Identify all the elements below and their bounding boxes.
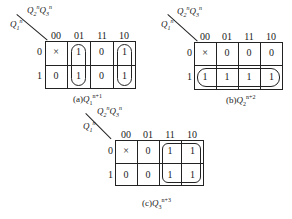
kmap-b: Q2nQ3n Q1n 00 01 11 10 0 1 × 0 0 0 1 1 1… [146, 0, 292, 110]
column-header: 10 [181, 129, 203, 140]
row-header: 1 [34, 70, 42, 81]
cell: 0 [137, 145, 159, 156]
grid-divider [194, 65, 283, 66]
column-header: 00 [45, 30, 67, 41]
cell: 0 [137, 169, 159, 180]
grouping-loop [117, 44, 132, 86]
grouping-loop [71, 44, 86, 86]
row-variable-label: Q1n [161, 18, 174, 31]
kmap-c: Q2nQ3n Q1n 00 01 11 10 0 1 × 0 1 1 0 0 1… [70, 105, 220, 219]
column-header: 01 [137, 129, 159, 140]
row-header: 1 [105, 169, 113, 180]
grouping-loop [197, 68, 280, 87]
cell: 0 [115, 169, 137, 180]
kmap-a: Q2nQ3n Q1n 00 01 11 10 0 1 × 1 0 1 0 1 0… [0, 0, 146, 110]
column-header: 10 [260, 31, 282, 42]
cell: 0 [45, 70, 67, 81]
cell: 0 [260, 47, 283, 58]
column-header: 01 [216, 31, 238, 42]
cell: 0 [238, 47, 260, 58]
cell: 0 [90, 46, 113, 57]
row-header: 0 [105, 145, 113, 156]
row-variable-label: Q1n [10, 18, 23, 31]
cell: × [115, 145, 137, 156]
column-variable-label: Q2nQ3n [27, 4, 52, 17]
row-header: 0 [34, 46, 42, 57]
column-header: 11 [159, 129, 181, 140]
row-variable-label: Q1n [83, 120, 96, 133]
cell: × [45, 46, 67, 57]
grouping-loop [162, 143, 201, 183]
column-variable-label: Q2nQ3n [97, 105, 122, 118]
caption: (b)Q2n+2 [226, 94, 255, 107]
column-header: 11 [91, 30, 113, 41]
column-header: 01 [68, 30, 90, 41]
cell: 0 [90, 70, 113, 81]
column-variable-label: Q2nQ3n [177, 5, 202, 18]
column-header: 10 [113, 30, 135, 41]
column-header: 11 [238, 31, 260, 42]
caption: (a)Q1n+1 [73, 93, 102, 106]
cell: 0 [216, 47, 238, 58]
cell: × [194, 47, 216, 58]
column-header: 00 [115, 129, 137, 140]
row-header: 0 [184, 47, 192, 58]
row-header: 1 [184, 71, 192, 82]
caption: (c)Q3n+3 [142, 197, 171, 210]
column-header: 00 [194, 31, 216, 42]
